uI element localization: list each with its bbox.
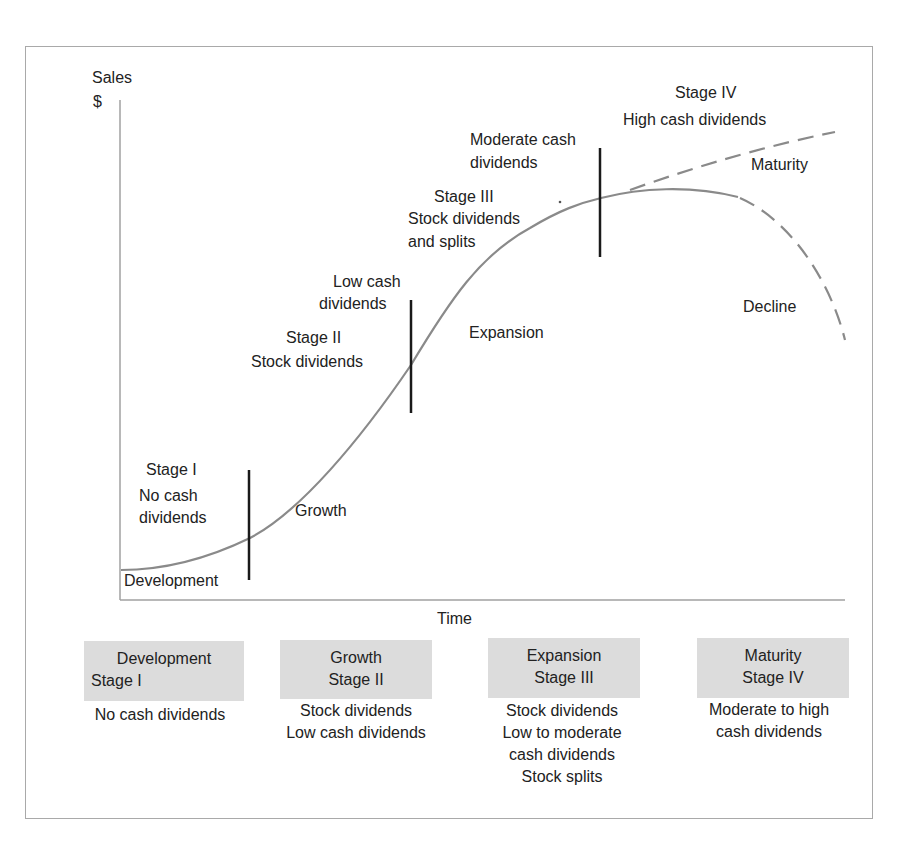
- y-axis-label-dollar: $: [93, 91, 102, 113]
- summary-desc-development: No cash dividends: [60, 704, 260, 726]
- stage2-line1: Stock dividends: [251, 351, 363, 373]
- box-stage: Stage IV: [697, 667, 849, 689]
- stage2-top-line1: Low cash: [333, 271, 401, 293]
- desc-line: cash dividends: [669, 721, 869, 743]
- stage2-title: Stage II: [286, 327, 341, 349]
- print-speck: [559, 201, 562, 204]
- stage3-title: Stage III: [434, 186, 494, 208]
- box-stage: Stage I: [84, 670, 244, 692]
- summary-box-development: Development Stage I: [84, 641, 244, 701]
- box-title: Maturity: [697, 645, 849, 667]
- desc-line: No cash dividends: [60, 704, 260, 726]
- desc-line: Low to moderate: [462, 722, 662, 744]
- label-decline: Decline: [743, 296, 796, 318]
- decline-dashed-curve: [740, 198, 845, 340]
- summary-desc-expansion: Stock dividends Low to moderate cash div…: [462, 700, 662, 788]
- desc-line: Low cash dividends: [256, 722, 456, 744]
- x-axis-label-time: Time: [437, 608, 472, 630]
- y-axis-label-sales: Sales: [92, 67, 132, 89]
- stage3-top-line2: dividends: [470, 152, 538, 174]
- stage4-title: Stage IV: [675, 82, 736, 104]
- summary-box-maturity: Maturity Stage IV: [697, 638, 849, 698]
- box-stage: Stage III: [488, 667, 640, 689]
- label-development: Development: [124, 570, 218, 592]
- label-growth: Growth: [295, 500, 347, 522]
- stage1-title: Stage I: [146, 459, 197, 481]
- stage3-line2: and splits: [408, 231, 476, 253]
- stage3-top-line1: Moderate cash: [470, 129, 576, 151]
- stage4-line1: High cash dividends: [623, 109, 766, 131]
- label-maturity: Maturity: [751, 154, 808, 176]
- label-expansion: Expansion: [469, 322, 544, 344]
- summary-box-expansion: Expansion Stage III: [488, 638, 640, 698]
- stage1-line1: No cash: [139, 485, 198, 507]
- desc-line: Stock dividends: [256, 700, 456, 722]
- summary-box-growth: Growth Stage II: [280, 640, 432, 699]
- stage2-top-line2: dividends: [319, 293, 387, 315]
- box-title: Growth: [280, 647, 432, 669]
- stage1-line2: dividends: [139, 507, 207, 529]
- desc-line: Moderate to high: [669, 699, 869, 721]
- box-stage: Stage II: [280, 669, 432, 691]
- summary-desc-growth: Stock dividends Low cash dividends: [256, 700, 456, 744]
- desc-line: Stock splits: [462, 766, 662, 788]
- desc-line: Stock dividends: [462, 700, 662, 722]
- box-title: Expansion: [488, 645, 640, 667]
- desc-line: cash dividends: [462, 744, 662, 766]
- box-title: Development: [84, 648, 244, 670]
- summary-desc-maturity: Moderate to high cash dividends: [669, 699, 869, 743]
- stage3-line1: Stock dividends: [408, 208, 520, 230]
